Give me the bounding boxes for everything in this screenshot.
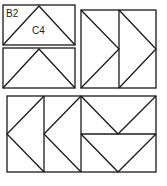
quilt-block-diagram	[0, 0, 167, 186]
flying-geese-top-2	[3, 48, 75, 88]
right-arrow-pair	[81, 10, 156, 88]
bottom-right-geese	[81, 96, 156, 172]
label-b2: B2	[6, 9, 18, 19]
label-c4: C4	[32, 26, 45, 36]
